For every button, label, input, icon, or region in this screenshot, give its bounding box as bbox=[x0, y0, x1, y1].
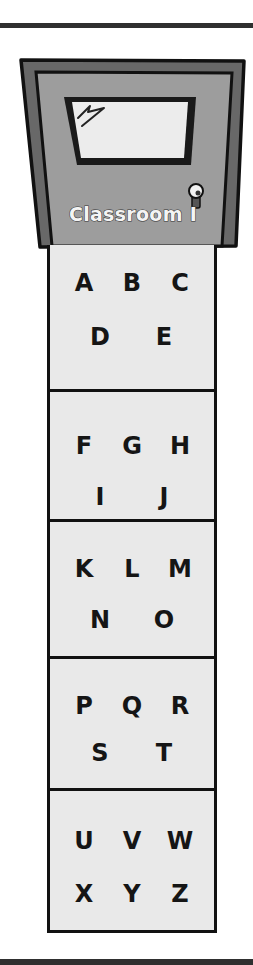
letter-row: D E bbox=[50, 323, 214, 351]
letter: U bbox=[70, 827, 98, 855]
letter: Z bbox=[166, 880, 194, 908]
letter: B bbox=[118, 269, 146, 297]
letter: F bbox=[70, 432, 98, 460]
letter-row: I J bbox=[50, 483, 214, 511]
letter: G bbox=[118, 432, 146, 460]
letter: D bbox=[86, 323, 114, 351]
letter: C bbox=[166, 269, 194, 297]
letter: V bbox=[118, 827, 146, 855]
alphabet-column: A B C D E F G H I J K L M N O bbox=[47, 245, 217, 933]
letter: X bbox=[70, 880, 98, 908]
letter: R bbox=[166, 692, 194, 720]
letter: J bbox=[150, 483, 178, 511]
classroom-label: Classroom I bbox=[48, 203, 218, 225]
letter-row: S T bbox=[50, 739, 214, 767]
letter: M bbox=[166, 555, 194, 583]
letter-section-4: P Q R S T bbox=[50, 659, 214, 791]
letter: K bbox=[70, 555, 98, 583]
letter: E bbox=[150, 323, 178, 351]
letter-section-2: F G H I J bbox=[50, 392, 214, 522]
letter-row: X Y Z bbox=[50, 880, 214, 908]
letter-section-5: U V W X Y Z bbox=[50, 791, 214, 933]
letter: L bbox=[118, 555, 146, 583]
letter: N bbox=[86, 606, 114, 634]
letter: Y bbox=[118, 880, 146, 908]
letter: W bbox=[166, 827, 194, 855]
letter: O bbox=[150, 606, 178, 634]
letter: T bbox=[150, 739, 178, 767]
letter-row: F G H bbox=[50, 432, 214, 460]
letter-row: A B C bbox=[50, 269, 214, 297]
letter-row: U V W bbox=[50, 827, 214, 855]
letter: Q bbox=[118, 692, 146, 720]
letter: A bbox=[70, 269, 98, 297]
letter: P bbox=[70, 692, 98, 720]
letter: I bbox=[86, 483, 114, 511]
letter-section-3: K L M N O bbox=[50, 522, 214, 659]
bottom-divider-line bbox=[0, 959, 253, 965]
letter: S bbox=[86, 739, 114, 767]
letter-section-1: A B C D E bbox=[50, 245, 214, 392]
letter: H bbox=[166, 432, 194, 460]
letter-row: N O bbox=[50, 606, 214, 634]
letter-row: K L M bbox=[50, 555, 214, 583]
letter-row: P Q R bbox=[50, 692, 214, 720]
